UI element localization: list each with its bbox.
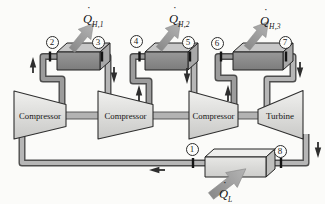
ql-dot: ·	[223, 178, 227, 186]
ql-symbol: Q	[219, 187, 228, 201]
label-ql: ·QL	[219, 184, 232, 204]
flow-arrow-down-state3	[111, 67, 117, 83]
qh3-symbol: Q	[260, 14, 269, 28]
qh3-dot: ·	[264, 5, 268, 13]
state-point-8: 8	[274, 145, 287, 158]
state-tick-8	[280, 158, 282, 168]
shaft-comp1-comp2	[65, 112, 99, 119]
qh2-dot: ·	[173, 3, 177, 11]
ql-subscript: L	[228, 195, 232, 204]
state-tick-4	[138, 52, 140, 62]
state-point-1: 1	[186, 143, 199, 156]
state-tick-5	[189, 52, 191, 62]
hx2-front-face	[145, 52, 188, 70]
state-point-6: 6	[211, 37, 224, 50]
qh1-subscript: H,1	[92, 20, 104, 29]
compressor-3-label: Compressor	[193, 111, 235, 121]
turbine-label: Turbine	[266, 111, 294, 121]
flow-arrow-up-stage3	[225, 85, 231, 101]
flow-arrow-up-stage2	[136, 85, 142, 101]
state-point-3: 3	[92, 36, 105, 49]
label-qh1: ·QH,1	[83, 9, 104, 29]
label-qh2: ·QH,2	[169, 9, 190, 29]
state-tick-3	[101, 52, 103, 62]
state-tick-1	[192, 158, 194, 168]
shaft-comp3-turbine	[237, 112, 259, 119]
flow-arrow-down-state8	[315, 142, 321, 158]
state-point-4: 4	[130, 35, 143, 48]
flow-arrow-up-stage1	[30, 57, 36, 73]
state-point-5: 5	[182, 36, 195, 49]
qh2-subscript: H,2	[178, 20, 190, 29]
state-tick-7	[285, 52, 287, 62]
hx3-front-face	[233, 52, 283, 70]
evaporator-top-face	[205, 149, 275, 157]
cycle-diagram: Compressor Compressor Compressor Turbine	[0, 0, 325, 204]
state-tick-6	[220, 52, 222, 62]
pipe-compressor3-to-hx3	[218, 57, 235, 106]
qh1-dot: ·	[87, 3, 91, 11]
qh1-symbol: Q	[83, 12, 92, 26]
compressor-1-label: Compressor	[19, 111, 61, 121]
hx1-front-face	[57, 52, 100, 70]
pipe-evaporator-to-compressor1	[22, 132, 206, 163]
state-point-7: 7	[279, 36, 292, 49]
qh2-symbol: Q	[169, 12, 178, 26]
label-qh3: ·QH,3	[260, 11, 281, 31]
state-point-2: 2	[46, 36, 59, 49]
flow-arrow-left-return	[149, 167, 165, 173]
state-tick-2	[49, 52, 51, 62]
qh3-subscript: H,3	[269, 22, 281, 31]
compressor-2-label: Compressor	[105, 111, 147, 121]
shaft-comp2-comp3	[152, 112, 190, 119]
flow-arrow-down-state7	[297, 62, 303, 78]
